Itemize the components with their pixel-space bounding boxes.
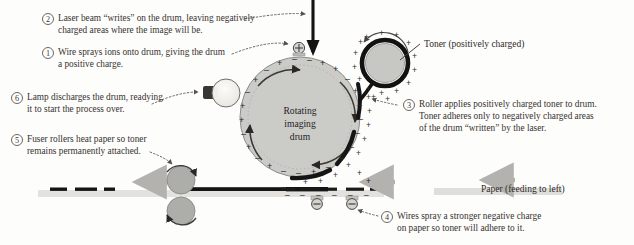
laser-beam-arrow [307,0,320,56]
svg-text:+: + [367,106,372,116]
svg-text:+: + [366,176,371,186]
step-5-line-1: Fuser rollers heat paper so toner [27,134,147,146]
step-6-line-1: Lamp discharges the drum, readying [27,92,163,104]
svg-text:–: – [300,190,305,200]
svg-text:+: + [303,177,308,187]
svg-text:–: – [349,142,354,152]
step-1-number: 1 [42,47,54,59]
svg-text:+: + [357,168,362,178]
drum-label-line-2: imaging [270,117,330,130]
svg-text:+: + [362,134,367,144]
svg-text:+: + [246,142,251,152]
svg-text:–: – [296,168,301,178]
svg-text:–: – [345,74,350,84]
step-4-number: 4 [381,211,393,223]
svg-text:–: – [316,190,321,200]
leader-step1 [232,43,288,54]
drum-label-line-1: Rotating [270,104,330,117]
step-3-line-2: Toner adheres only to negatively charged… [419,111,594,123]
svg-text:–: – [348,190,353,200]
drum-label-line-3: drum [270,130,330,143]
svg-text:–: – [264,65,269,75]
svg-text:+: + [346,160,351,170]
svg-text:+: + [353,48,358,58]
step-5-number: 5 [11,134,23,146]
svg-text:–: – [285,190,290,200]
svg-text:–: – [358,114,363,124]
svg-text:+: + [364,32,369,42]
step-6-line-2: it to start the process over. [27,104,125,116]
svg-text:+: + [253,75,258,85]
step-1-line-2: a positive charge. [58,59,123,71]
step-2-line-2: charged areas where the image will be. [58,25,203,37]
svg-text:+: + [240,101,245,111]
svg-text:+: + [311,167,316,177]
svg-text:+: + [379,28,384,38]
svg-text:+: + [333,170,338,180]
svg-text:+: + [356,148,361,158]
svg-text:–: – [255,153,260,163]
svg-text:–: – [355,128,360,138]
svg-text:+: + [371,92,376,102]
step-3-line-3: of the drum “written” by the laser. [419,123,546,135]
svg-text:+: + [412,65,417,75]
step-1-line-1: Wire sprays ions onto drum, giving the d… [58,47,225,59]
svg-text:+: + [320,58,325,68]
svg-text:–: – [332,190,337,200]
svg-text:+: + [385,94,390,104]
svg-text:+: + [277,58,282,68]
svg-text:+: + [357,74,362,84]
svg-text:–: – [292,54,297,64]
step-3-line-1: Roller applies positively charged toner … [419,99,597,111]
step-5-line-2: remains permanently attached. [27,146,141,158]
step-2-number: 2 [42,13,54,25]
leader-step4 [358,210,378,216]
svg-text:+: + [366,120,371,130]
svg-text:+: + [379,88,384,98]
svg-text:–: – [241,129,246,139]
step-3-number: 3 [403,99,415,111]
svg-text:–: – [357,100,362,110]
svg-text:–: – [281,166,286,176]
svg-text:+: + [352,62,357,72]
svg-text:–: – [364,190,369,200]
svg-text:–: – [326,162,331,172]
discharge-lamp [203,79,240,107]
step-4-line-1: Wires spray a stronger negative charge [397,211,541,223]
svg-text:+: + [239,115,244,125]
laser-printer-diagram: + – – + + – + – – – – – – + – – + – + – … [0,0,634,245]
svg-text:+: + [333,64,338,74]
svg-text:+: + [406,78,411,88]
step-2-line-1: Laser beam “writes” on the drum, leaving… [58,13,255,25]
svg-text:–: – [245,87,250,97]
svg-text:+: + [318,176,323,186]
svg-text:+: + [412,51,417,61]
svg-text:+: + [267,161,272,171]
step-4-line-2: on paper so toner will adhere to it. [397,223,525,235]
svg-text:–: – [339,153,344,163]
leader-step5 [150,152,172,164]
svg-text:+: + [353,86,358,96]
svg-text:+: + [394,86,399,96]
svg-text:–: – [307,55,312,65]
paper-label: Paper (feeding to left) [481,184,565,194]
toner-label: Toner (positively charged) [424,39,524,49]
svg-text:+: + [358,37,363,47]
step-6-number: 6 [11,92,23,104]
svg-text:+: + [394,30,399,40]
svg-text:+: + [406,38,411,48]
